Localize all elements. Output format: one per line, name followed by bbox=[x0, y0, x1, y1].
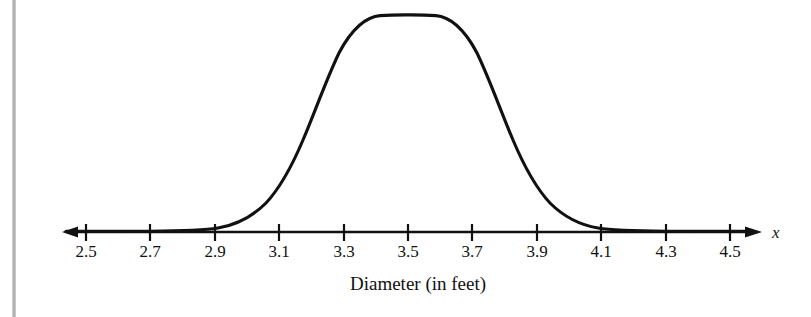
x-axis-variable-label: x bbox=[772, 224, 780, 241]
x-tick-label-4-3: 4.3 bbox=[638, 243, 694, 260]
x-tick-label-3-7: 3.7 bbox=[444, 243, 500, 260]
normal-distribution-figure: 2.5 2.7 2.9 3.1 3.3 3.5 3.7 3.9 4.1 4.3 … bbox=[0, 0, 811, 317]
x-tick-label-4-5: 4.5 bbox=[702, 243, 758, 260]
x-tick-label-2-9: 2.9 bbox=[187, 243, 243, 260]
x-tick-label-4-1: 4.1 bbox=[573, 243, 629, 260]
x-axis-title: Diameter (in feet) bbox=[288, 274, 548, 293]
x-tick-label-2-5: 2.5 bbox=[58, 243, 114, 260]
plot-canvas bbox=[0, 0, 811, 317]
x-tick-label-3-5: 3.5 bbox=[380, 243, 436, 260]
normal-density-curve bbox=[66, 15, 750, 232]
x-tick-label-3-9: 3.9 bbox=[509, 243, 565, 260]
x-tick-label-3-1: 3.1 bbox=[251, 243, 307, 260]
x-tick-label-2-7: 2.7 bbox=[122, 243, 178, 260]
x-tick-label-3-3: 3.3 bbox=[316, 243, 372, 260]
